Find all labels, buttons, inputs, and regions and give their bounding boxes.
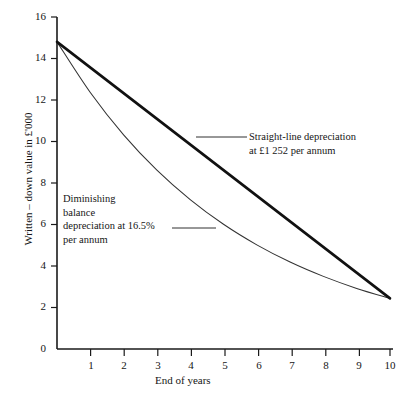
annotation-diminishing-balance: Diminishing balance depreciation at 16.5… — [63, 192, 155, 246]
y-tick-label-2: 2 — [22, 301, 46, 312]
x-axis-ticks — [91, 349, 390, 356]
depreciation-chart: 16 14 12 10 8 6 4 2 0 1 2 3 4 5 6 7 8 9 … — [0, 0, 405, 398]
series-straight-line — [57, 42, 390, 298]
x-tick-label-5: 5 — [215, 360, 235, 371]
y-axis-ticks — [51, 17, 57, 308]
x-tick-label-6: 6 — [249, 360, 269, 371]
axis-lines — [57, 17, 393, 349]
annotation-diminishing-line-3: depreciation at 16.5% — [63, 219, 155, 233]
x-tick-label-7: 7 — [282, 360, 302, 371]
y-axis-title: Written – down value in £'000 — [22, 89, 34, 269]
annotation-diminishing-line-1: Diminishing — [63, 192, 155, 206]
x-axis-title: End of years — [155, 374, 211, 386]
annotation-straight-line: Straight-line depreciation at £1 252 per… — [249, 130, 356, 157]
x-tick-label-4: 4 — [181, 360, 201, 371]
y-tick-label-0: 0 — [22, 343, 46, 354]
x-tick-label-10: 10 — [380, 360, 400, 371]
x-tick-label-8: 8 — [316, 360, 336, 371]
x-tick-label-1: 1 — [81, 360, 101, 371]
chart-plot-area — [0, 0, 405, 398]
x-tick-label-2: 2 — [114, 360, 134, 371]
annotation-diminishing-line-2: balance — [63, 206, 155, 220]
annotation-straight-line-1: Straight-line depreciation — [249, 130, 356, 144]
annotation-straight-line-2: at £1 252 per annum — [249, 144, 356, 158]
x-tick-label-3: 3 — [148, 360, 168, 371]
y-tick-label-16: 16 — [22, 11, 46, 22]
x-tick-label-9: 9 — [349, 360, 369, 371]
y-tick-label-14: 14 — [22, 52, 46, 63]
annotation-diminishing-line-4: per annum — [63, 233, 155, 247]
